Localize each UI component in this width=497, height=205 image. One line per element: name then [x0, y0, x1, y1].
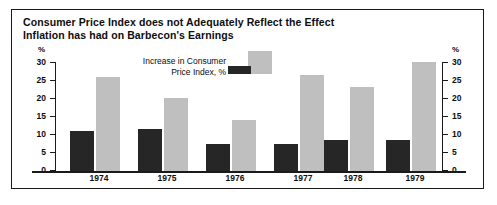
bar-cpi-1975	[138, 129, 162, 171]
y-tickmark-left-25	[50, 80, 55, 81]
bar-cpi-1977	[274, 144, 298, 171]
bar-earnings-1978	[350, 87, 374, 171]
y-tickmark-left-15	[50, 116, 55, 117]
y-tick-left-0: 0	[30, 165, 46, 175]
y-tick-left-20: 20	[30, 93, 46, 103]
x-label-1976: 1976	[204, 173, 266, 183]
y-tickmark-left-5	[50, 152, 55, 153]
plot-area: % % 30 25 20 15 10 5 0 30 25 20 15 10 5 …	[12, 10, 485, 190]
y-tick-right-25: 25	[452, 75, 468, 85]
x-label-1974: 1974	[68, 173, 130, 183]
chart-figure: Consumer Price Index does not Adequately…	[11, 9, 484, 189]
y-tick-right-5: 5	[452, 147, 468, 157]
bar-cpi-1974	[70, 131, 94, 171]
x-label-1978: 1978	[322, 173, 384, 183]
y-tick-left-10: 10	[30, 129, 46, 139]
y-tick-right-30: 30	[452, 57, 468, 67]
bar-group-1974	[68, 41, 130, 171]
bar-cpi-1979	[386, 140, 410, 171]
bar-group-1979	[384, 41, 446, 171]
y-tickmark-left-20	[50, 98, 55, 99]
bar-group-1975	[136, 41, 198, 171]
bar-earnings-1975	[164, 98, 188, 171]
bar-cpi-1978	[324, 140, 348, 171]
y-tick-left-5: 5	[30, 147, 46, 157]
bar-earnings-1977	[300, 75, 324, 171]
bar-group-1978	[322, 41, 384, 171]
bar-earnings-1979	[412, 62, 436, 171]
bar-earnings-1974	[96, 77, 120, 171]
y-tickmark-left-10	[50, 134, 55, 135]
x-label-1975: 1975	[136, 173, 198, 183]
y-tick-right-0: 0	[452, 165, 468, 175]
bar-earnings-1976	[232, 120, 256, 171]
x-label-1979: 1979	[384, 173, 446, 183]
y-axis-right-unit: %	[452, 45, 459, 54]
y-tickmark-left-30	[50, 62, 55, 63]
y-tick-right-10: 10	[452, 129, 468, 139]
bar-group-1976	[204, 41, 266, 171]
y-axis-left-unit: %	[38, 45, 45, 54]
y-axis-left-spine	[55, 62, 56, 171]
bar-cpi-1976	[206, 144, 230, 171]
y-tick-right-15: 15	[452, 111, 468, 121]
y-tick-left-30: 30	[30, 57, 46, 67]
y-tick-left-15: 15	[30, 111, 46, 121]
y-tick-right-20: 20	[452, 93, 468, 103]
y-tick-left-25: 25	[30, 75, 46, 85]
